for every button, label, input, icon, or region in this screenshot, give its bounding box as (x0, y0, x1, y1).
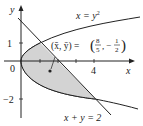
centroid-point (48, 69, 51, 72)
x-axis-label: x (125, 65, 131, 76)
x-axis-arrow-icon (129, 59, 135, 64)
y-axis-label: y (9, 4, 15, 15)
tick-label-ym2: −2 (3, 94, 14, 105)
line-label: x + y = 2 (63, 112, 101, 123)
tick-label-x4: 4 (91, 65, 96, 76)
tick-label-y1: 1 (7, 38, 12, 49)
frac2-sign: − (106, 40, 111, 50)
centroid-label-lhs: (x̄, ȳ) = (51, 41, 79, 52)
frac2-den: 2 (115, 46, 119, 54)
shaded-region-fill (21, 43, 95, 99)
y-axis-arrow-icon (19, 5, 24, 11)
frac2-num: 1 (115, 37, 119, 45)
frac1-num: 8 (96, 37, 100, 45)
parabola-label: x = y2 (75, 10, 100, 21)
paren-open: ( (90, 37, 95, 54)
diagram-canvas: y x 0 4 1 −2 x = y2 x + y = 2 (x̄, ȳ) = … (0, 0, 143, 126)
origin-label: 0 (10, 63, 15, 74)
comma: , (102, 41, 104, 51)
frac1-den: 5 (96, 46, 100, 54)
paren-close: ) (121, 37, 126, 54)
